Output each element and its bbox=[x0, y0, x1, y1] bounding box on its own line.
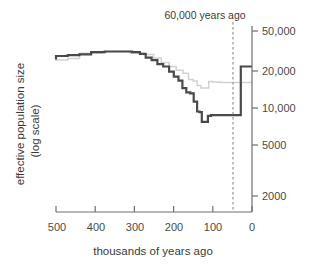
x-tick-label-200: 200 bbox=[165, 221, 183, 233]
x-tick-label-300: 300 bbox=[126, 221, 144, 233]
y-axis-title-line2: (log scale) bbox=[29, 104, 41, 157]
x-tick-label-100: 100 bbox=[204, 221, 222, 233]
y-tick-label-10000: 10,000 bbox=[262, 102, 296, 114]
y-tick-label-2000: 2000 bbox=[262, 190, 286, 202]
y-tick-label-50000: 50,000 bbox=[262, 25, 296, 37]
sixty-thousand-years-ago-label: 60,000 years ago bbox=[164, 9, 245, 21]
x-tick-label-400: 400 bbox=[87, 221, 105, 233]
x-axis-title: thousands of years ago bbox=[93, 245, 213, 257]
x-tick-label-500: 500 bbox=[48, 221, 66, 233]
population-size-chart: 500 400 300 200 100 0 50,000 20,000 10,0… bbox=[0, 0, 319, 273]
x-tick-label-0: 0 bbox=[249, 221, 255, 233]
y-axis-title-line1: effective population size bbox=[14, 63, 26, 186]
y-tick-label-20000: 20,000 bbox=[262, 65, 296, 77]
y-tick-label-5000: 5000 bbox=[262, 139, 286, 151]
